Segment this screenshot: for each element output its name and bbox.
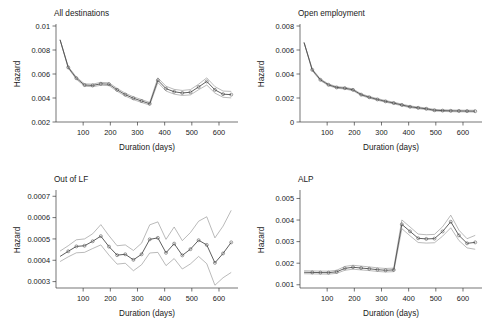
y-axis-title: Hazard xyxy=(257,226,266,253)
series-line-lower-ci xyxy=(304,228,475,274)
x-tick-label: 300 xyxy=(131,128,143,137)
x-tick-label: 100 xyxy=(77,128,89,137)
chart-svg: Out of LF0.00030.00040.00050.00060.00071… xyxy=(0,166,243,331)
panel-out-of-lf: Out of LF0.00030.00040.00050.00060.00071… xyxy=(0,166,243,331)
y-tick-label: 0.006 xyxy=(32,70,51,79)
x-tick-label: 600 xyxy=(213,294,225,303)
series-line-lower-ci xyxy=(60,40,231,105)
x-tick-label: 200 xyxy=(104,294,116,303)
chart-svg: All destinations0.0020.0040.0060.0080.01… xyxy=(0,0,243,165)
hazard-figure: All destinations0.0020.0040.0060.0080.01… xyxy=(0,0,487,331)
x-tick-label: 500 xyxy=(430,128,442,137)
y-tick-label: 0.005 xyxy=(276,194,295,203)
y-tick-label: 0.01 xyxy=(36,22,50,31)
x-tick-label: 400 xyxy=(158,294,170,303)
series-line-lower-ci xyxy=(60,245,231,285)
panel-open-employment: Open employment00.0020.0040.0060.0081002… xyxy=(244,0,487,165)
x-tick-label: 200 xyxy=(348,294,360,303)
y-tick-label: 0.002 xyxy=(32,118,51,127)
x-axis-title: Duration (days) xyxy=(119,309,175,318)
y-tick-label: 0.004 xyxy=(276,216,295,225)
y-tick-label: 0.004 xyxy=(276,70,295,79)
x-tick-label: 600 xyxy=(457,128,469,137)
y-tick-label: 0.002 xyxy=(276,94,295,103)
y-tick-label: 0.006 xyxy=(276,46,295,55)
y-tick-label: 0.001 xyxy=(276,280,295,289)
x-tick-label: 400 xyxy=(402,294,414,303)
y-tick-label: 0.004 xyxy=(32,94,51,103)
series-line-estimate xyxy=(304,43,475,112)
y-tick-label: 0 xyxy=(290,118,294,127)
panel-alp: ALP0.0010.0020.0030.0040.005100200300400… xyxy=(244,166,487,331)
y-tick-label: 0.0007 xyxy=(27,192,50,201)
y-tick-label: 0.0006 xyxy=(27,213,50,222)
panel-title: ALP xyxy=(298,175,314,184)
x-tick-label: 100 xyxy=(321,128,333,137)
series-line-upper-ci xyxy=(60,40,231,103)
x-axis-title: Duration (days) xyxy=(119,143,175,152)
y-tick-label: 0.008 xyxy=(32,46,51,55)
y-tick-label: 0.0005 xyxy=(27,235,50,244)
y-tick-label: 0.0003 xyxy=(27,277,50,286)
y-tick-label: 0.003 xyxy=(276,237,295,246)
x-tick-label: 300 xyxy=(375,128,387,137)
x-tick-label: 100 xyxy=(77,294,89,303)
chart-svg: ALP0.0010.0020.0030.0040.005100200300400… xyxy=(244,166,487,331)
chart-svg: Open employment00.0020.0040.0060.0081002… xyxy=(244,0,487,165)
x-tick-label: 600 xyxy=(213,128,225,137)
x-tick-label: 300 xyxy=(375,294,387,303)
x-tick-label: 500 xyxy=(186,294,198,303)
y-tick-label: 0.0004 xyxy=(27,256,50,265)
panel-all-destinations: All destinations0.0020.0040.0060.0080.01… xyxy=(0,0,243,165)
x-axis-title: Duration (days) xyxy=(363,309,419,318)
y-axis-title: Hazard xyxy=(13,226,22,253)
panel-title: Open employment xyxy=(298,9,366,18)
panel-title: All destinations xyxy=(54,9,109,18)
y-axis-title: Hazard xyxy=(257,60,266,87)
x-tick-label: 100 xyxy=(321,294,333,303)
y-axis-title: Hazard xyxy=(13,60,22,87)
x-tick-label: 300 xyxy=(131,294,143,303)
x-tick-label: 400 xyxy=(158,128,170,137)
series-line-upper-ci xyxy=(304,43,475,111)
x-tick-label: 400 xyxy=(402,128,414,137)
panel-title: Out of LF xyxy=(54,175,88,184)
x-axis-title: Duration (days) xyxy=(363,143,419,152)
x-tick-label: 500 xyxy=(430,294,442,303)
x-tick-label: 200 xyxy=(348,128,360,137)
series-line-estimate xyxy=(60,40,231,104)
y-tick-label: 0.002 xyxy=(276,259,295,268)
y-tick-label: 0.008 xyxy=(276,22,295,31)
x-tick-label: 600 xyxy=(457,294,469,303)
x-tick-label: 200 xyxy=(104,128,116,137)
x-tick-label: 500 xyxy=(186,128,198,137)
